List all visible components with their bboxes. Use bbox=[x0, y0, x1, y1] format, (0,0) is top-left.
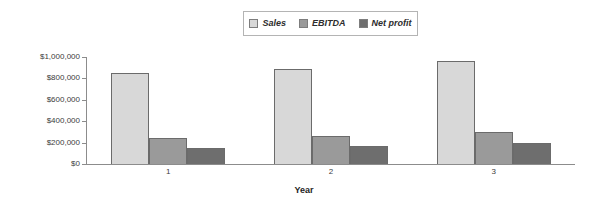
bar[interactable] bbox=[350, 146, 388, 164]
bar[interactable] bbox=[187, 148, 225, 164]
y-axis-tick bbox=[82, 100, 86, 101]
y-axis-tick-label: $600,000 bbox=[47, 96, 80, 104]
x-axis-category-label: 3 bbox=[491, 168, 495, 176]
legend-item[interactable]: Sales bbox=[249, 19, 286, 28]
bar-series-container bbox=[87, 57, 575, 164]
y-axis-tick bbox=[82, 121, 86, 122]
bar[interactable] bbox=[149, 138, 187, 164]
x-axis-title: Year bbox=[0, 186, 608, 195]
x-axis-category-label: 2 bbox=[329, 168, 333, 176]
y-axis-tick-label: $0 bbox=[71, 160, 80, 168]
bar[interactable] bbox=[475, 132, 513, 164]
y-axis-tick bbox=[82, 143, 86, 144]
bar-group bbox=[437, 57, 551, 164]
legend-label: EBITDA bbox=[312, 19, 346, 28]
legend-item[interactable]: Net profit bbox=[359, 19, 412, 28]
y-axis-tick bbox=[82, 78, 86, 79]
bar[interactable] bbox=[312, 136, 350, 164]
bar[interactable] bbox=[437, 61, 475, 164]
y-axis-labels: $0$200,000$400,000$600,000$800,000$1,000… bbox=[14, 57, 80, 164]
x-axis-category-labels: 123 bbox=[87, 168, 575, 180]
legend-swatch-icon bbox=[299, 19, 308, 28]
y-axis-tick-label: $800,000 bbox=[47, 74, 80, 82]
plot-area bbox=[86, 57, 575, 164]
bar[interactable] bbox=[111, 73, 149, 164]
y-axis-tick-label: $1,000,000 bbox=[40, 53, 80, 61]
bar[interactable] bbox=[274, 69, 312, 164]
x-axis-line bbox=[86, 164, 575, 165]
y-axis-tick bbox=[82, 57, 86, 58]
y-axis-tick-label: $400,000 bbox=[47, 117, 80, 125]
legend-swatch-icon bbox=[249, 19, 258, 28]
legend-swatch-icon bbox=[359, 19, 368, 28]
legend-item[interactable]: EBITDA bbox=[299, 19, 346, 28]
chart-legend: SalesEBITDANet profit bbox=[243, 11, 418, 36]
bar-group bbox=[111, 57, 225, 164]
bar-chart: SalesEBITDANet profit $0$200,000$400,000… bbox=[0, 0, 608, 212]
bar[interactable] bbox=[513, 143, 551, 164]
bar-group bbox=[274, 57, 388, 164]
legend-label: Net profit bbox=[372, 19, 412, 28]
x-axis-category-label: 1 bbox=[166, 168, 170, 176]
legend-label: Sales bbox=[262, 19, 286, 28]
y-axis-tick bbox=[82, 164, 86, 165]
y-axis-tick-label: $200,000 bbox=[47, 139, 80, 147]
